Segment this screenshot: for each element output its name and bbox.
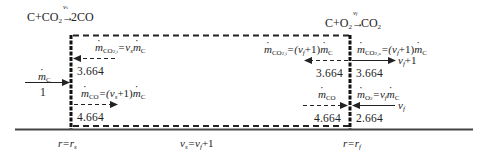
co2-outward-arrow-label: νf+1 [398,55,417,68]
co-out-of-surface-value: 4.664 [77,112,104,124]
reaction-arrow-icon: →νs [62,11,71,23]
surface-radius-label: r=rs [58,138,77,151]
co2-outward-value: 3.664 [356,68,383,80]
surface-reaction-rhs: 2CO [71,10,94,24]
surface-reaction-lhs: C+CO [27,10,58,24]
co-into-flame-value: 4.664 [314,113,341,125]
co-out-of-surface-label: mCO=(νs+1)mC [81,88,145,101]
flame-radius-label: r=rf [343,138,361,151]
co2-inward-label: mCO2,i=(νf+1)mC [264,44,333,57]
stoich-relation-label: νs=νf+1 [180,138,214,151]
o2-arrow-label: νf [398,100,405,113]
co2-into-surface-value: 3.664 [77,66,104,78]
carbon-inflow-label: mC [38,71,51,84]
flame-reaction-label: C+O2→νfCO2 [325,17,381,31]
co-into-flame-label: mCO [318,89,336,102]
flame-reaction-lhs: C+O [325,16,348,30]
surface-reaction-coeff: νs [63,4,68,11]
carbon-inflow-value: 1 [40,87,46,99]
flame-reaction-rhs-sub: 2 [378,23,382,31]
surface-reaction-label: C+CO2→νs2CO [27,11,94,25]
flame-reaction-coeff: νf [353,10,358,17]
co2-inward-value: 3.664 [316,68,343,80]
co2-into-surface-label: mCO2,i=νsmC [95,42,146,55]
o2-into-flame-label: mO2=νfmC [357,89,399,102]
o2-into-flame-value: 2.664 [356,113,383,125]
reaction-arrow-icon: →νf [352,17,361,29]
